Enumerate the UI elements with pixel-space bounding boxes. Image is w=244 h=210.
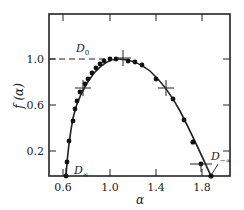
y-ticks-left xyxy=(49,59,56,151)
y-axis-label: f (α) xyxy=(12,83,26,110)
y-ticks-right xyxy=(223,59,230,151)
x-ticks-top xyxy=(63,14,202,21)
x-tick-label: 1.8 xyxy=(193,181,211,194)
data-points xyxy=(64,57,214,179)
theory-curve xyxy=(66,59,211,176)
x-tick-label: 1.0 xyxy=(101,181,119,194)
d0-label: D0 xyxy=(75,42,89,57)
dinf-label: D∞ xyxy=(73,164,89,179)
x-tick-label: 1.4 xyxy=(147,181,165,194)
x-tick-label: 0.6 xyxy=(54,181,72,194)
y-tick-label: 0.6 xyxy=(27,99,45,112)
y-tick-label: 1.0 xyxy=(27,53,45,66)
x-axis-label: α xyxy=(136,193,144,207)
plot-frame xyxy=(49,14,230,176)
y-tick-label: 0.2 xyxy=(27,145,45,158)
dneginf-leader-line xyxy=(212,164,218,174)
dneginf-label: D−∞ xyxy=(210,150,232,165)
f-alpha-chart: 0.6 1.0 1.4 1.8 0.2 0.6 1.0 α f (α) xyxy=(0,0,244,210)
